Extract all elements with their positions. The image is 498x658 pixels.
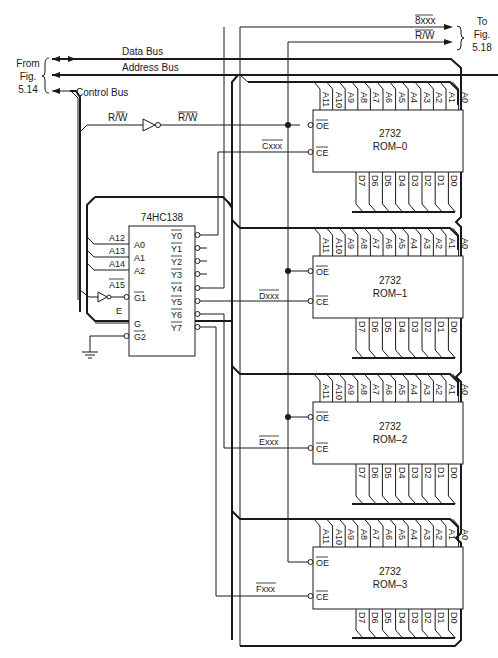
svg-text:ROM–3: ROM–3 [373, 579, 408, 590]
svg-text:Cxxx: Cxxx [262, 141, 282, 151]
svg-text:Y1: Y1 [171, 244, 182, 254]
address-pin-label: A10 [334, 384, 344, 400]
data-pin-label: D0 [449, 175, 459, 187]
svg-text:5.18: 5.18 [472, 42, 492, 53]
svg-text:A14: A14 [109, 259, 125, 269]
data-pin-label: D4 [397, 175, 407, 187]
data-pin-label: D1 [436, 467, 446, 479]
address-pin-label: A10 [334, 92, 344, 108]
data-pin-label: D7 [357, 467, 367, 479]
svg-text:Y7: Y7 [171, 323, 182, 333]
address-pin-label: A3 [422, 384, 432, 395]
data-pin-label: D1 [436, 321, 446, 333]
address-pin-label: A8 [359, 238, 369, 249]
svg-text:Y2: Y2 [171, 257, 182, 267]
data-pin-label: D3 [410, 612, 420, 624]
address-pin-label: A5 [397, 92, 407, 103]
address-pin-label: A1 [447, 92, 457, 103]
rw-inverter: R/W R/W [80, 112, 300, 132]
address-pin-label: A4 [409, 529, 419, 540]
address-pin-label: A11 [321, 92, 331, 107]
rom-0: 2732 ROM–0 OE CE Cxxx [240, 75, 463, 172]
data-pin-label: D2 [423, 321, 433, 333]
address-pin-label: A2 [434, 529, 444, 540]
address-pin-label: A6 [384, 529, 394, 540]
svg-text:G2: G2 [134, 332, 146, 342]
address-line [314, 82, 320, 110]
svg-text:CE: CE [316, 592, 329, 602]
data-pin-label: D1 [436, 175, 446, 187]
address-pin-label: A10 [334, 529, 344, 545]
ground-icon [82, 352, 98, 358]
svg-text:Y0: Y0 [171, 231, 182, 241]
data-pin-label: D2 [423, 467, 433, 479]
svg-text:CE: CE [316, 444, 329, 454]
data-pin-label: D5 [383, 175, 393, 187]
address-pin-label: A5 [397, 529, 407, 540]
address-pin-label: A11 [321, 529, 331, 544]
address-pin-label: A5 [397, 238, 407, 249]
svg-text:CE: CE [316, 148, 329, 158]
svg-text:A13: A13 [109, 246, 125, 256]
svg-text:OE: OE [316, 267, 329, 277]
data-pin-label: D3 [410, 175, 420, 187]
svg-text:From: From [16, 58, 39, 69]
address-pin-label: A10 [334, 238, 344, 254]
svg-text:OE: OE [316, 558, 329, 568]
arrow-right-icon [444, 39, 453, 45]
address-pin-label: A3 [422, 529, 432, 540]
svg-text:R/W: R/W [178, 112, 198, 123]
address-bus: Address Bus [52, 62, 498, 78]
brace-icon [42, 58, 49, 93]
svg-text:R/W: R/W [415, 30, 435, 41]
address-pin-label: A4 [409, 238, 419, 249]
arrow-left-icon [52, 72, 60, 78]
data-pin-label: D2 [423, 612, 433, 624]
svg-text:2732: 2732 [379, 566, 402, 577]
data-pin-label: D5 [383, 321, 393, 333]
address-pin-label: A0 [460, 238, 470, 249]
address-pin-label: A0 [460, 529, 470, 540]
data-pin-label: D5 [383, 467, 393, 479]
data-pin-label: D3 [410, 467, 420, 479]
address-pin-label: A1 [447, 529, 457, 540]
svg-text:2732: 2732 [379, 421, 402, 432]
svg-text:ROM–1: ROM–1 [373, 288, 408, 299]
data-pin-label: D6 [370, 467, 380, 479]
address-line [314, 228, 320, 256]
svg-text:Fxxx: Fxxx [256, 584, 275, 594]
address-pin-label: A4 [409, 384, 419, 395]
svg-text:8xxx: 8xxx [415, 15, 436, 26]
arrow-right-icon [444, 24, 453, 30]
address-pin-label: A9 [346, 529, 356, 540]
arrow-left-icon [52, 88, 60, 94]
address-bus-branch [87, 75, 238, 640]
svg-text:Y3: Y3 [171, 270, 182, 280]
address-pin-label: A9 [346, 238, 356, 249]
svg-text:A12: A12 [109, 233, 125, 243]
inverter-icon [98, 292, 107, 302]
from-figure-label: From Fig. 5.14 [16, 58, 49, 95]
address-pin-label: A9 [346, 384, 356, 395]
address-pin-label: A0 [460, 384, 470, 395]
svg-text:2732: 2732 [379, 275, 402, 286]
address-line [314, 519, 320, 547]
address-pin-label: A5 [397, 384, 407, 395]
data-pin-label: D7 [357, 321, 367, 333]
svg-text:CE: CE [316, 297, 329, 307]
address-pin-label: A6 [384, 384, 394, 395]
address-pin-label: A7 [371, 384, 381, 395]
data-pin-label: D4 [397, 321, 407, 333]
svg-text:To: To [477, 16, 488, 27]
address-pin-label: A2 [434, 238, 444, 249]
data-pin-label: D0 [449, 612, 459, 624]
svg-text:G: G [134, 319, 141, 329]
svg-text:R/W: R/W [108, 112, 128, 123]
data-pin-label: D7 [357, 612, 367, 624]
svg-text:ROM–0: ROM–0 [373, 141, 408, 152]
address-pin-label: A3 [422, 238, 432, 249]
address-pin-label: A6 [384, 238, 394, 249]
address-pin-label: A2 [434, 384, 444, 395]
svg-text:OE: OE [316, 121, 329, 131]
data-pin-label: D4 [397, 612, 407, 624]
